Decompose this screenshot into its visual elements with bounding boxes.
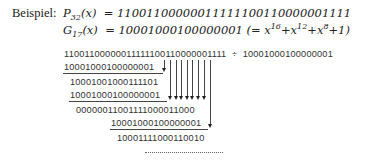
arrow-down-icon [190,96,194,100]
g-name: G [63,23,72,37]
step-4-remainder: 00000011001111000011000 [76,105,195,115]
arrow-down-icon [185,96,189,100]
arrow-down-icon [202,96,206,100]
g-exp-12: 12 [297,22,307,31]
bring-down-line-7 [198,60,199,96]
arrow-down-icon [168,96,172,100]
arrow-down-icon [196,96,200,100]
bring-down-line-1 [164,60,165,68]
g-tail: +1) [328,23,349,37]
bring-down-line-4 [181,60,182,96]
bring-down-line-2 [170,60,171,96]
p-name: P [63,6,71,20]
g-arg: (x) [82,23,97,37]
bring-down-line-6 [192,60,193,96]
g-plus-1: +x [281,23,297,37]
step-5-subtrahend: 10001000100000001 [111,118,201,128]
g-value: = 10001000100000001 (= x [105,23,271,37]
p-value: = 11001100000011111100110000001111 [104,6,351,20]
step-1-underline [63,73,163,74]
bring-down-line-8 [204,60,205,96]
arrow-down-icon [179,96,183,100]
g-subscript: 17 [72,30,82,39]
division-operator: ÷ [232,49,237,59]
bring-down-line-9 [210,60,211,124]
continuation-dots [145,152,223,153]
dividend-row: 11001100000011111100110000001111 ÷ 10001… [64,49,333,59]
arrow-down-icon [174,96,178,100]
step-1-subtrahend: 10001000100000001 [64,62,154,72]
step-6-remainder: 10001111000110010 [117,133,205,143]
divisor: 10001000100000001 [243,49,333,59]
bring-down-line-5 [187,60,188,96]
step-2-remainder: 10001001000111101 [70,77,158,87]
step-3-subtrahend: 10001000100000001 [70,90,160,100]
g-plus-2: +x [307,23,323,37]
polynomial-g17: G17(x) = 10001000100000001 (= x16+x12+x8… [63,21,350,41]
arrow-down-icon [208,124,212,128]
dividend: 11001100000011111100110000001111 [64,49,226,59]
p-arg: (x) [81,6,96,20]
example-label: Beispiel: [12,6,56,20]
arrow-down-icon [162,68,166,72]
step-5-underline [110,129,208,130]
g-exp-16: 16 [271,22,281,31]
bring-down-line-3 [176,60,177,96]
step-3-underline [69,101,167,102]
